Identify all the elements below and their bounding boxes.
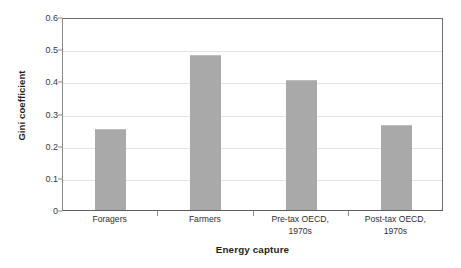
bar[interactable] (381, 125, 412, 210)
y-tick-label: 0.4 (32, 77, 58, 87)
y-tick-label: 0 (32, 206, 58, 216)
x-category-label-line: Farmers (189, 214, 221, 224)
plot-area (62, 18, 443, 211)
y-axis-ticks: 00.10.20.30.40.50.6 (28, 18, 58, 211)
y-tick-label: 0.6 (32, 13, 58, 23)
x-category-label-line: 1970s (348, 226, 443, 238)
y-tick-label: 0.5 (32, 45, 58, 55)
y-tick-label: 0.2 (32, 142, 58, 152)
x-category-label-line: Post-tax OECD, (365, 214, 426, 224)
y-axis-title-text: Gini coefficient (16, 70, 27, 140)
x-category-label-line: 1970s (253, 226, 348, 238)
x-category-label-line: Pre-tax OECD, (271, 214, 328, 224)
bar[interactable] (190, 55, 221, 210)
x-category-label: Farmers (157, 214, 252, 226)
x-category-label: Post-tax OECD,1970s (348, 214, 443, 237)
x-tick-mark (348, 211, 349, 216)
y-tick-label: 0.1 (32, 174, 58, 184)
x-category-label: Pre-tax OECD,1970s (253, 214, 348, 237)
x-category-label: Foragers (62, 214, 157, 226)
bar[interactable] (286, 80, 317, 210)
x-tick-mark (157, 211, 158, 216)
bar-series (63, 19, 442, 210)
bar-chart-figure: Gini coefficient 00.10.20.30.40.50.6 For… (0, 0, 461, 268)
x-axis-title: Energy capture (62, 244, 443, 255)
y-tick-label: 0.3 (32, 110, 58, 120)
x-category-label-line: Foragers (92, 214, 126, 224)
bar[interactable] (95, 129, 126, 210)
x-tick-mark (253, 211, 254, 216)
